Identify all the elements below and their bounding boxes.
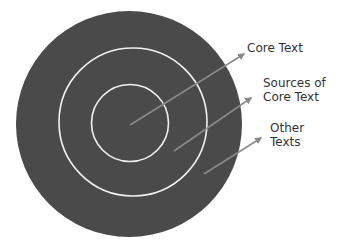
- label-other-line2: Texts: [270, 135, 301, 150]
- label-sources-line2: Core Text: [263, 90, 319, 105]
- label-sources-line1: Sources of: [263, 76, 326, 91]
- outer-circle-other-texts: [16, 11, 242, 237]
- label-core-text: Core Text: [247, 41, 303, 56]
- label-other-line1: Other: [270, 121, 304, 136]
